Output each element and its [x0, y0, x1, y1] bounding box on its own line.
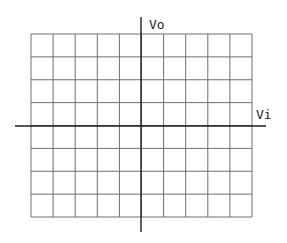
vi-axis-label: Vi	[256, 107, 272, 122]
graticule-diagram: Vo Vi	[0, 0, 287, 243]
vo-axis-label: Vo	[149, 17, 165, 32]
